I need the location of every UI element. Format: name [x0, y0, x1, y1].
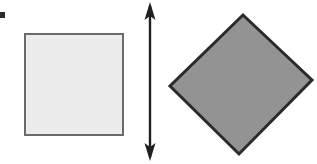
light-square-shape: [25, 34, 123, 135]
figure-canvas: Square and rotated square joined by a ve…: [0, 0, 317, 164]
figure-svg: [0, 0, 317, 164]
corner-tick-mark-icon: [0, 12, 5, 18]
vertical-double-arrow-icon: [145, 2, 156, 161]
gray-diamond-shape: [170, 15, 312, 154]
